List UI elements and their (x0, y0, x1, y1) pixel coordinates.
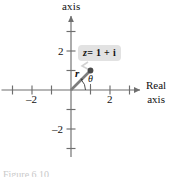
real-axis-label: Realaxis (146, 79, 166, 107)
angle-label: θ (88, 74, 93, 84)
y-tick-label-2: 2 (58, 46, 64, 57)
point-callout-equation: = 1 + i (87, 47, 116, 58)
real-axis-label-line2: axis (146, 93, 166, 107)
radius-label: r (75, 68, 79, 79)
x-tick-label-minus-2: –2 (26, 94, 37, 105)
imaginary-axis-label: axis (62, 1, 81, 12)
figure-caption: Figure 6.10 (3, 169, 175, 177)
x-tick-label-2: 2 (107, 94, 113, 105)
complex-plane-figure: axis Realaxis –2 2 2 –2 r θ z= 1 + i Fig… (0, 0, 178, 177)
angle-arc (81, 80, 85, 90)
y-tick-label-minus-2: –2 (52, 124, 63, 135)
point-callout-label: z= 1 + i (78, 45, 121, 61)
real-axis-label-line1: Real (146, 79, 166, 91)
